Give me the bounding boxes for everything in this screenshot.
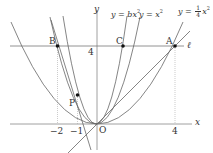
line-l-label: ℓ bbox=[187, 41, 191, 50]
x-tick-4: 4 bbox=[172, 127, 178, 136]
eq-rhs: bx bbox=[127, 10, 137, 19]
point-c-label: C bbox=[116, 37, 123, 46]
point-p bbox=[76, 93, 80, 97]
eq-exp: 2 bbox=[160, 8, 163, 14]
eq-sign: = bbox=[116, 10, 128, 19]
eq-exp: 2 bbox=[207, 5, 210, 11]
x-tick-neg1: −1 bbox=[70, 127, 83, 136]
origin-label: O bbox=[99, 126, 106, 135]
y-axis-label: y bbox=[94, 5, 99, 14]
curve-x-squared bbox=[50, 17, 140, 124]
diagram-canvas bbox=[0, 0, 213, 153]
x-tick-neg2: −2 bbox=[50, 127, 63, 136]
curve-label-bx2: y = bx2 bbox=[111, 9, 140, 19]
point-a-label: A bbox=[166, 37, 173, 46]
point-b bbox=[56, 44, 60, 48]
curve-label-x2: y = x2 bbox=[139, 9, 163, 19]
point-a bbox=[173, 44, 177, 48]
point-p-label: P bbox=[69, 99, 75, 108]
point-b-label: B bbox=[49, 37, 56, 46]
eq-sign: = bbox=[183, 7, 195, 16]
frac-den: 4 bbox=[196, 12, 200, 18]
curve-label-quarter-x2: y = 14x2 bbox=[178, 5, 210, 18]
fraction: 14 bbox=[195, 5, 201, 18]
x-axis-label: x bbox=[195, 118, 200, 127]
y-tick-4: 4 bbox=[88, 48, 94, 57]
eq-sign: = bbox=[144, 10, 156, 19]
